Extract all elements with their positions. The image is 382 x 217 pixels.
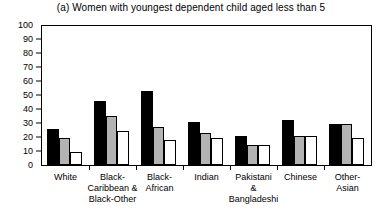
y-tick-label: 20 (23, 133, 33, 142)
y-tick-label: 80 (23, 49, 33, 58)
bar (200, 133, 212, 165)
y-tick-label: 0 (28, 161, 33, 170)
x-tick-mark (183, 165, 184, 170)
bar (294, 136, 306, 165)
bar (188, 122, 200, 165)
bar-group (136, 25, 183, 165)
bar (70, 152, 82, 165)
bar (352, 138, 364, 165)
bar (59, 138, 71, 165)
x-category-label: Other- Asian (315, 172, 380, 194)
bar (141, 91, 153, 165)
bar-group (324, 25, 371, 165)
bar (305, 136, 317, 165)
y-axis: 0102030405060708090100 (0, 25, 41, 166)
y-tick-label: 60 (23, 77, 33, 86)
x-tick-mark (277, 165, 278, 170)
bar (47, 129, 59, 165)
y-tick-label: 100 (18, 21, 33, 30)
bar (247, 145, 259, 165)
bar (329, 124, 341, 165)
bar (258, 145, 270, 165)
bar (117, 131, 129, 165)
bars-layer (42, 25, 371, 165)
chart-title: (a) Women with youngest dependent child … (0, 2, 382, 13)
x-tick-mark (324, 165, 325, 170)
y-tick-label: 40 (23, 105, 33, 114)
bar-group (277, 25, 324, 165)
x-tick-mark (89, 165, 90, 170)
bar (94, 101, 106, 165)
bar (106, 116, 118, 165)
chart-container: (a) Women with youngest dependent child … (0, 0, 382, 217)
y-tick-label: 70 (23, 63, 33, 72)
bar-group (42, 25, 89, 165)
y-tick-label: 50 (23, 91, 33, 100)
x-tick-mark (230, 165, 231, 170)
bar (211, 138, 223, 165)
bar (235, 136, 247, 165)
bar-group (89, 25, 136, 165)
x-axis-labels: WhiteBlack- Caribbean & Black-OtherBlack… (42, 172, 371, 217)
bar (164, 140, 176, 165)
y-tick-label: 30 (23, 119, 33, 128)
bar-group (183, 25, 230, 165)
x-axis-ticks (42, 165, 371, 171)
y-tick-label: 10 (23, 147, 33, 156)
bar (153, 127, 165, 165)
x-tick-mark (136, 165, 137, 170)
bar-group (230, 25, 277, 165)
y-tick-label: 90 (23, 35, 33, 44)
bar (282, 120, 294, 165)
bar (341, 124, 353, 165)
